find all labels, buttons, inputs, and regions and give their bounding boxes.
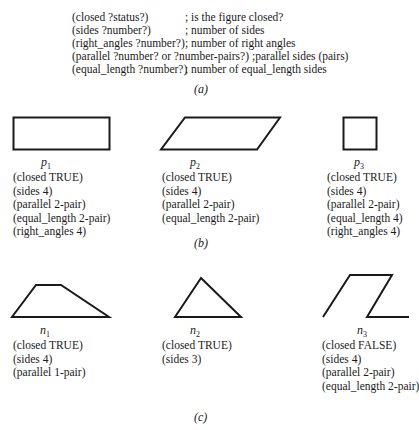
prop-line: (sides 4) xyxy=(13,353,85,367)
prop-line: (parallel 2-pair) xyxy=(322,366,419,380)
prop-line: (closed TRUE) xyxy=(327,171,403,185)
prop-line: (parallel 1-pair) xyxy=(13,366,85,380)
prop-line: (parallel 2-pair) xyxy=(327,198,403,212)
prop-line: (right_angles 4) xyxy=(327,225,403,239)
figure-label-n2: n2 xyxy=(190,323,200,339)
rectangle-p1-shape xyxy=(14,118,110,150)
prop-line: (sides 3) xyxy=(162,353,232,367)
prop-line: (closed TRUE) xyxy=(162,171,259,185)
trapezoid-n1-shape xyxy=(12,285,109,317)
prop-line: (sides 4) xyxy=(162,185,259,199)
prop-line: (closed TRUE) xyxy=(162,339,232,353)
props-p3: (closed TRUE) (sides 4) (parallel 2-pair… xyxy=(327,171,403,239)
figure-label-p3: p3 xyxy=(354,155,364,171)
props-p1: (closed TRUE) (sides 4) (parallel 2-pair… xyxy=(13,171,110,239)
caption-c: (c) xyxy=(194,410,207,425)
prop-line: (equal_length 2-pair) xyxy=(162,212,259,226)
figure-label-n1: n1 xyxy=(40,323,50,339)
prop-line: (equal_length 2-pair) xyxy=(322,380,419,394)
props-n1: (closed TRUE) (sides 4) (parallel 1-pair… xyxy=(13,339,85,380)
figure-label-p1: p1 xyxy=(41,155,51,171)
figure-label-p2: p2 xyxy=(190,155,200,171)
prop-line: (sides 4) xyxy=(322,353,419,367)
props-n3: (closed FALSE) (sides 4) (parallel 2-pai… xyxy=(322,339,419,393)
prop-line: (parallel 2-pair) xyxy=(13,198,110,212)
props-p2: (closed TRUE) (sides 4) (parallel 2-pair… xyxy=(162,171,259,225)
prop-line: (equal_length 2-pair) xyxy=(13,212,110,226)
prop-line: (closed TRUE) xyxy=(13,339,85,353)
prop-line: (right_angles 4) xyxy=(13,225,110,239)
open-shape-n3 xyxy=(323,275,409,317)
prop-line: (parallel 2-pair) xyxy=(162,198,259,212)
prop-line: (equal_length 4) xyxy=(327,212,403,226)
parallelogram-p2-shape xyxy=(161,118,280,150)
square-p3-shape xyxy=(344,118,377,150)
prop-line: (sides 4) xyxy=(327,185,403,199)
prop-line: (sides 4) xyxy=(13,185,110,199)
triangle-n2-shape xyxy=(175,278,241,317)
prop-line: (closed FALSE) xyxy=(322,339,419,353)
props-n2: (closed TRUE) (sides 3) xyxy=(162,339,232,366)
figure-label-n3: n3 xyxy=(357,323,367,339)
prop-line: (closed TRUE) xyxy=(13,171,110,185)
caption-b: (b) xyxy=(194,236,208,251)
